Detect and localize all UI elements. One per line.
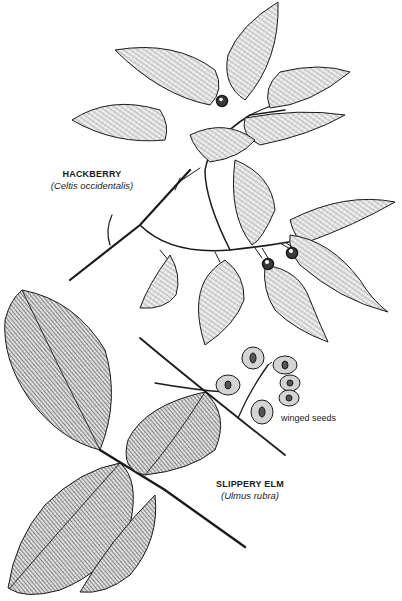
hackberry-scientific-name: (Celtis occidentalis) (42, 180, 142, 192)
hackberry-common-name: HACKBERRY (42, 168, 142, 180)
slippery-elm-caption: SLIPPERY ELM (Ulmus rubra) (205, 478, 295, 502)
berry-icon (263, 259, 274, 270)
elm-leaf (5, 290, 112, 450)
hackberry-leaf (140, 255, 178, 308)
botanical-illustration (0, 0, 402, 601)
winged-seeds-annotation: winged seeds (281, 412, 351, 424)
slippery-elm-scientific-name: (Ulmus rubra) (205, 490, 295, 502)
hackberry-leaf (190, 128, 255, 162)
hackberry-leaf (290, 199, 395, 243)
hackberry-leaf (72, 104, 167, 140)
hackberry-leaf (244, 112, 345, 145)
hackberry-leaf (233, 160, 275, 245)
hackberry-leaf (115, 48, 219, 106)
hackberry-leaf (268, 67, 350, 108)
hackberry-leaf (199, 260, 245, 345)
hackberry-caption: HACKBERRY (Celtis occidentalis) (42, 168, 142, 192)
slippery-elm-leaves (5, 290, 221, 595)
berry-icon (287, 248, 298, 259)
berry-icon (217, 96, 228, 107)
elm-leaf (126, 392, 221, 475)
slippery-elm-common-name: SLIPPERY ELM (205, 478, 295, 490)
